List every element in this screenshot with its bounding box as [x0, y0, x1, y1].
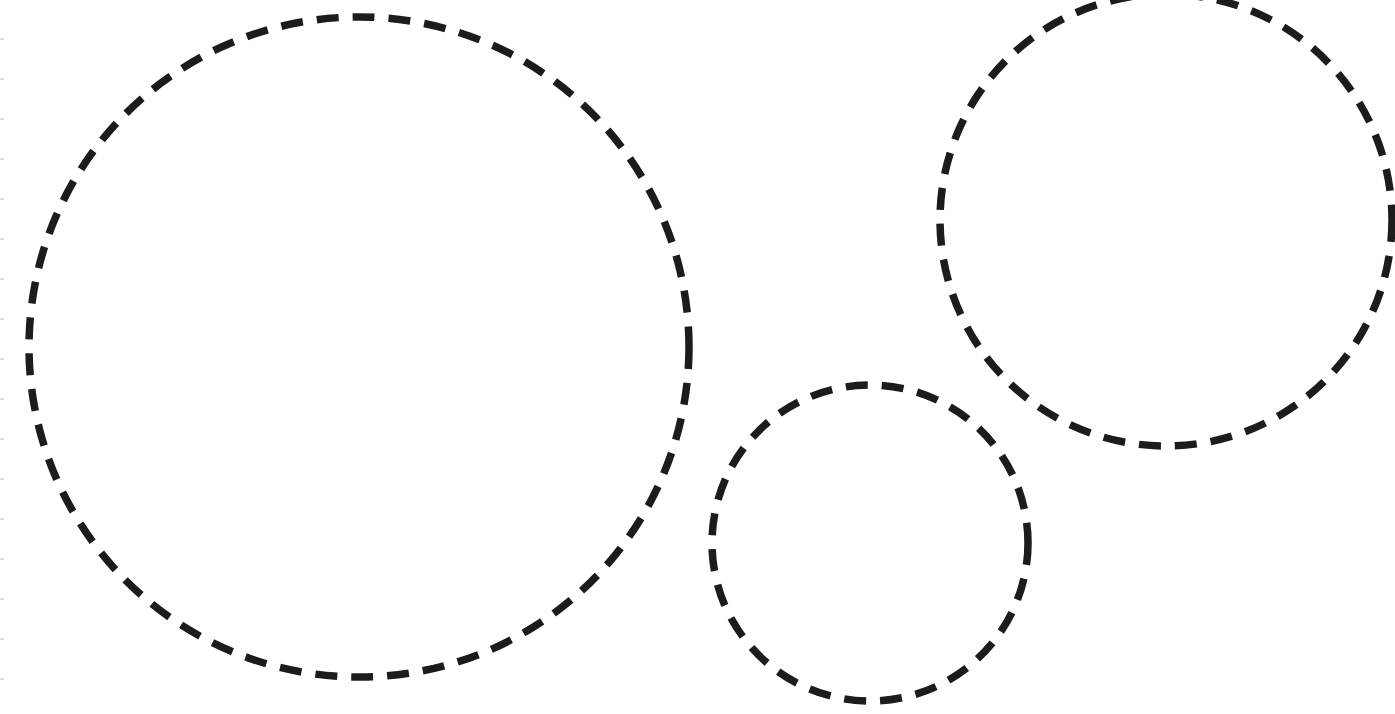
- small-dashed-circle: [712, 385, 1028, 701]
- top-right-dashed-circle: [940, 0, 1392, 446]
- cutout-template-canvas: [0, 0, 1395, 714]
- large-dashed-circle: [29, 17, 689, 677]
